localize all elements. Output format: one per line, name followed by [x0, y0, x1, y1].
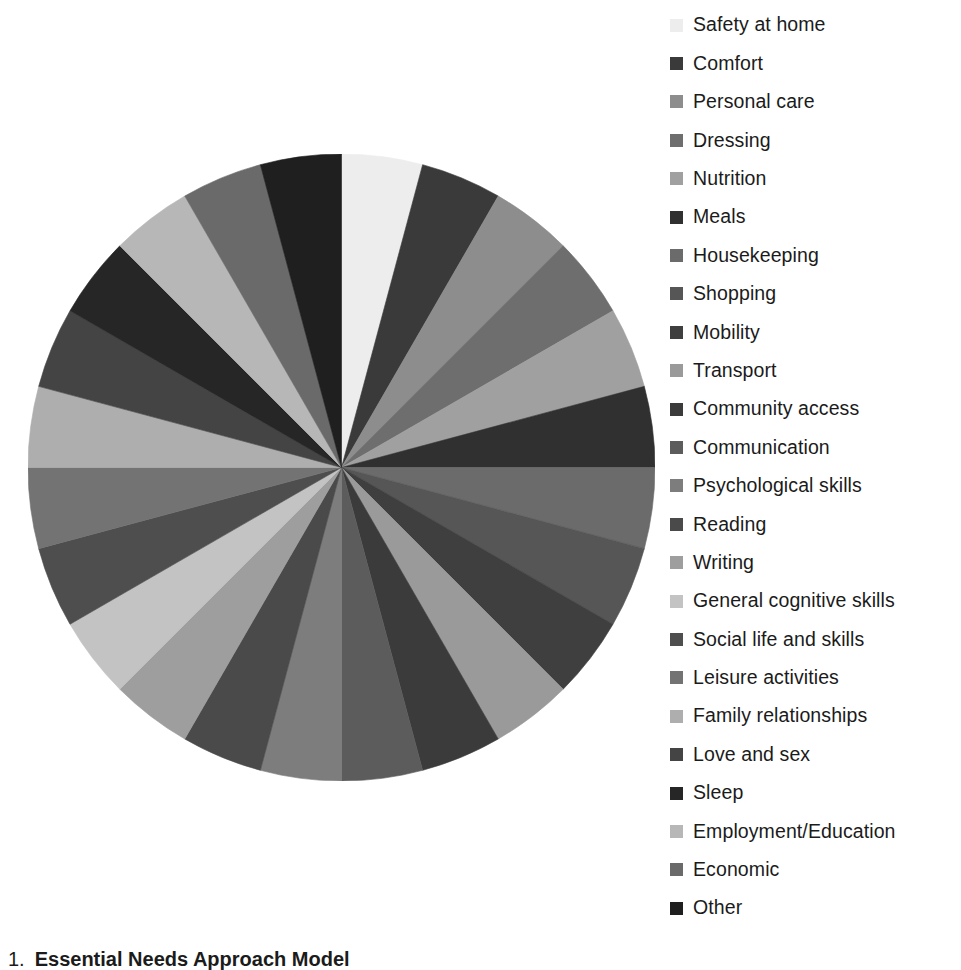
legend-label: Communication [693, 438, 830, 458]
legend-label: Transport [693, 361, 777, 381]
legend-swatch-icon [670, 671, 683, 684]
legend-label: Nutrition [693, 169, 767, 189]
legend-item[interactable]: Housekeeping [670, 236, 961, 274]
legend-label: Family relationships [693, 706, 867, 726]
legend-swatch-icon [670, 825, 683, 838]
legend-swatch-icon [670, 134, 683, 147]
legend-item[interactable]: Safety at home [670, 6, 961, 44]
legend-label: Economic [693, 860, 779, 880]
legend-item[interactable]: Family relationships [670, 697, 961, 735]
figure-caption-title: Essential Needs Approach Model [35, 948, 350, 970]
pie-chart-svg [28, 154, 655, 781]
legend-swatch-icon [670, 57, 683, 70]
legend-label: Mobility [693, 323, 760, 343]
legend-swatch-icon [670, 748, 683, 761]
legend-swatch-icon [670, 326, 683, 339]
legend-item[interactable]: Sleep [670, 774, 961, 812]
legend-label: Personal care [693, 92, 815, 112]
legend-label: Safety at home [693, 15, 826, 35]
legend-swatch-icon [670, 287, 683, 300]
legend-item[interactable]: Leisure activities [670, 659, 961, 697]
legend-label: Housekeeping [693, 246, 819, 266]
legend-swatch-icon [670, 518, 683, 531]
chart-legend: Safety at homeComfortPersonal careDressi… [670, 0, 961, 920]
legend-label: Community access [693, 399, 859, 419]
legend-swatch-icon [670, 403, 683, 416]
legend-label: Shopping [693, 284, 776, 304]
legend-swatch-icon [670, 479, 683, 492]
legend-swatch-icon [670, 19, 683, 32]
legend-item[interactable]: Communication [670, 428, 961, 466]
legend-swatch-icon [670, 787, 683, 800]
legend-item[interactable]: Personal care [670, 83, 961, 121]
legend-label: Writing [693, 553, 754, 573]
legend-item[interactable]: Social life and skills [670, 620, 961, 658]
pie-chart [28, 154, 655, 781]
legend-item[interactable]: Mobility [670, 313, 961, 351]
legend-swatch-icon [670, 441, 683, 454]
legend-label: General cognitive skills [693, 591, 895, 611]
legend-item[interactable]: Other [670, 889, 961, 927]
legend-swatch-icon [670, 95, 683, 108]
legend-item[interactable]: Psychological skills [670, 467, 961, 505]
legend-item[interactable]: Community access [670, 390, 961, 428]
legend-swatch-icon [670, 172, 683, 185]
legend-item[interactable]: Meals [670, 198, 961, 236]
legend-item[interactable]: Dressing [670, 121, 961, 159]
figure-caption-index: 1. [8, 948, 25, 970]
legend-item[interactable]: Reading [670, 505, 961, 543]
legend-label: Employment/Education [693, 822, 896, 842]
legend-label: Sleep [693, 783, 743, 803]
legend-swatch-icon [670, 595, 683, 608]
legend-label: Social life and skills [693, 630, 864, 650]
figure-caption: 1.Essential Needs Approach Model [8, 948, 350, 970]
legend-label: Leisure activities [693, 668, 839, 688]
legend-item[interactable]: Shopping [670, 275, 961, 313]
legend-item[interactable]: General cognitive skills [670, 582, 961, 620]
legend-item[interactable]: Writing [670, 543, 961, 581]
legend-swatch-icon [670, 249, 683, 262]
legend-item[interactable]: Love and sex [670, 735, 961, 773]
legend-swatch-icon [670, 364, 683, 377]
legend-label: Meals [693, 207, 746, 227]
legend-item[interactable]: Transport [670, 352, 961, 390]
legend-label: Dressing [693, 131, 771, 151]
legend-swatch-icon [670, 902, 683, 915]
legend-item[interactable]: Economic [670, 851, 961, 889]
legend-label: Reading [693, 515, 766, 535]
legend-label: Other [693, 898, 742, 918]
legend-item[interactable]: Comfort [670, 44, 961, 82]
legend-label: Psychological skills [693, 476, 862, 496]
legend-label: Comfort [693, 54, 763, 74]
legend-item[interactable]: Employment/Education [670, 812, 961, 850]
legend-swatch-icon [670, 710, 683, 723]
legend-item[interactable]: Nutrition [670, 160, 961, 198]
legend-swatch-icon [670, 633, 683, 646]
legend-swatch-icon [670, 211, 683, 224]
legend-swatch-icon [670, 556, 683, 569]
legend-swatch-icon [670, 863, 683, 876]
legend-label: Love and sex [693, 745, 810, 765]
